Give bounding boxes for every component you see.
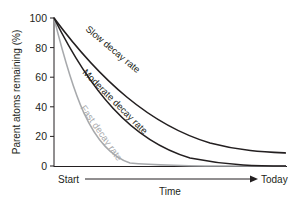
chart-svg: 0 20 40 60 80 100 Parent atoms remaining… (0, 0, 297, 205)
tick-0: 0 (41, 160, 47, 172)
tick-100: 100 (29, 12, 47, 24)
tick-60: 60 (35, 71, 47, 83)
slow-decay-curve (54, 18, 286, 153)
y-axis-label: Parent atoms remaining (%) (11, 30, 22, 155)
time-arrow-icon (250, 176, 258, 183)
y-ticks (50, 18, 54, 166)
y-tick-labels: 0 20 40 60 80 100 (29, 12, 47, 172)
today-label: Today (261, 174, 288, 185)
slow-decay-label: Slow decay rate (84, 23, 143, 75)
tick-20: 20 (35, 130, 47, 142)
x-axis-label: Time (159, 186, 181, 197)
fast-decay-curve (54, 18, 286, 166)
moderate-decay-curve (54, 18, 286, 166)
tick-80: 80 (35, 42, 47, 54)
decay-chart: 0 20 40 60 80 100 Parent atoms remaining… (0, 0, 297, 205)
tick-40: 40 (35, 101, 47, 113)
fast-decay-label: Fast decay rate (78, 103, 125, 163)
start-label: Start (58, 174, 79, 185)
